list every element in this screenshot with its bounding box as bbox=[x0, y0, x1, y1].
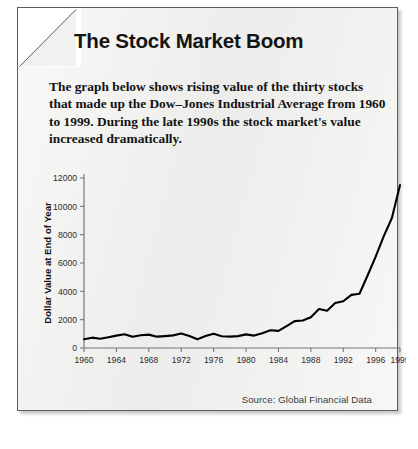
info-card: The Stock Market Boom The graph below sh… bbox=[17, 7, 398, 411]
y-tick-label: 0 bbox=[72, 343, 77, 353]
intro-paragraph: The graph below shows rising value of th… bbox=[49, 78, 389, 148]
data-series-line bbox=[84, 185, 400, 339]
x-tick-label: 1999 bbox=[390, 355, 406, 365]
x-tick-label: 1972 bbox=[172, 355, 191, 365]
y-axis-title: Dollar Value at End of Year bbox=[42, 202, 53, 324]
x-tick-label: 1980 bbox=[236, 355, 255, 365]
x-tick-label: 1968 bbox=[139, 355, 158, 365]
y-tick-label: 8000 bbox=[58, 230, 77, 240]
x-tick-label: 1988 bbox=[301, 355, 320, 365]
x-tick-label: 1984 bbox=[269, 355, 288, 365]
x-tick-label: 1964 bbox=[107, 355, 126, 365]
source-note: Source: Global Financial Data bbox=[242, 394, 372, 405]
folded-corner-icon bbox=[18, 8, 82, 68]
page-title: The Stock Market Boom bbox=[74, 29, 303, 53]
x-tick-label: 1960 bbox=[74, 355, 93, 365]
y-tick-label: 12000 bbox=[53, 173, 77, 183]
line-chart: 0200040006000800010000120001960196419681… bbox=[40, 166, 406, 381]
y-tick-label: 2000 bbox=[58, 315, 77, 325]
x-tick-label: 1992 bbox=[334, 355, 353, 365]
y-tick-label: 10000 bbox=[53, 202, 77, 212]
x-tick-label: 1976 bbox=[204, 355, 223, 365]
page-root: The Stock Market Boom The graph below sh… bbox=[0, 0, 418, 449]
x-tick-label: 1996 bbox=[366, 355, 385, 365]
chart-canvas: 0200040006000800010000120001960196419681… bbox=[40, 166, 406, 381]
y-tick-label: 6000 bbox=[58, 258, 77, 268]
y-tick-label: 4000 bbox=[58, 287, 77, 297]
